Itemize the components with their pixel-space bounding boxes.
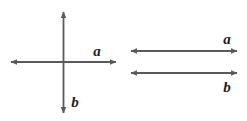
panel-parallel-vectors: a b	[131, 31, 237, 95]
label-a-parallel: a	[223, 31, 231, 47]
panel-perpendicular-vectors: a b	[11, 12, 116, 113]
label-a-perpendicular: a	[93, 43, 101, 59]
vector-diagram: a b a b	[0, 0, 247, 121]
label-b-perpendicular: b	[71, 94, 79, 110]
label-b-parallel: b	[223, 79, 231, 95]
vector-diagram-canvas: a b a b	[0, 0, 247, 121]
